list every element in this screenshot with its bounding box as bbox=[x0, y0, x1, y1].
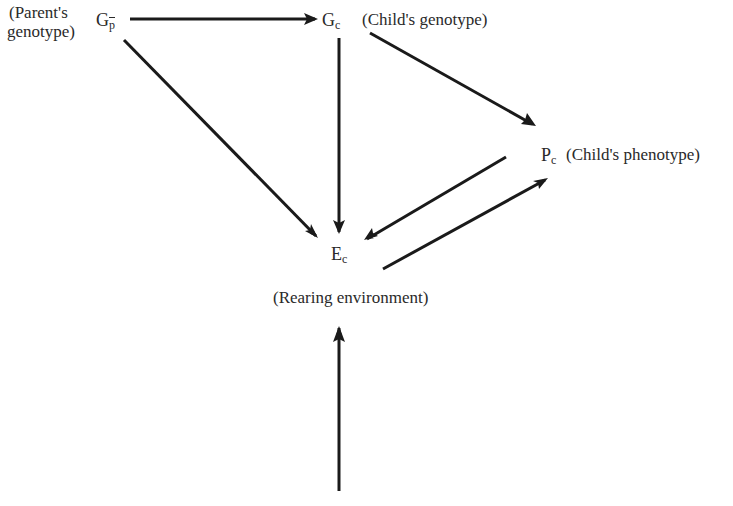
arrows-layer bbox=[0, 0, 733, 506]
arrow-parent-genotype-to-environment bbox=[124, 40, 316, 236]
arrow-phenotype-to-environment bbox=[367, 157, 506, 239]
arrow-child-genotype-to-phenotype bbox=[370, 33, 532, 124]
arrowhead-icon bbox=[533, 178, 548, 189]
arrow-environment-to-phenotype bbox=[383, 180, 545, 269]
